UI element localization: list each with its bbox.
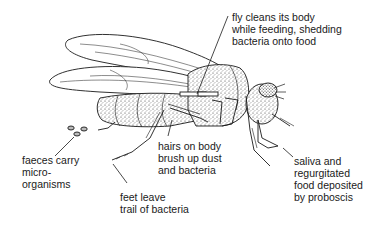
label-saliva-line-3: food deposited bbox=[294, 179, 363, 191]
label-hairs-line-1: hairs on body bbox=[158, 140, 222, 152]
faeces-droplets bbox=[68, 126, 87, 136]
label-faeces-line-2: micro- bbox=[22, 166, 79, 178]
label-faeces: faeces carry micro- organisms bbox=[22, 154, 79, 190]
label-hairs: hairs on body brush up dust and bacteria bbox=[158, 140, 222, 176]
label-feet: feet leave trail of bacteria bbox=[120, 191, 189, 215]
label-saliva-line-1: saliva and bbox=[294, 155, 363, 167]
label-saliva: saliva and regurgitated food deposited b… bbox=[294, 155, 363, 203]
label-saliva-line-2: regurgitated bbox=[294, 167, 363, 179]
fly-diagram: fly cleans its body while feeding, shedd… bbox=[0, 0, 387, 226]
label-hairs-line-3: and bacteria bbox=[158, 164, 222, 176]
label-faeces-line-3: organisms bbox=[22, 178, 79, 190]
label-cleaning-line-3: bacteria onto food bbox=[232, 35, 342, 47]
label-hairs-line-2: brush up dust bbox=[158, 152, 222, 164]
label-feet-line-1: feet leave bbox=[120, 191, 189, 203]
label-feet-line-2: trail of bacteria bbox=[120, 203, 189, 215]
label-cleaning-line-1: fly cleans its body bbox=[232, 11, 342, 23]
head bbox=[246, 83, 286, 124]
label-saliva-line-4: by proboscis bbox=[294, 191, 363, 203]
label-cleaning-line-2: while feeding, shedding bbox=[232, 23, 342, 35]
abdomen bbox=[97, 93, 200, 127]
leader-saliva bbox=[283, 148, 293, 157]
label-cleaning: fly cleans its body while feeding, shedd… bbox=[232, 11, 342, 47]
leader-feet bbox=[113, 164, 127, 183]
label-faeces-line-1: faeces carry bbox=[22, 154, 79, 166]
